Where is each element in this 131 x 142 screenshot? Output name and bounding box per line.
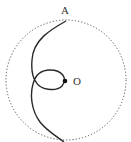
label-o: O [73,75,81,87]
trajectory-curve [31,21,66,142]
label-a: A [61,4,69,16]
diagram: A O [0,0,131,142]
point-o-dot [63,79,68,84]
